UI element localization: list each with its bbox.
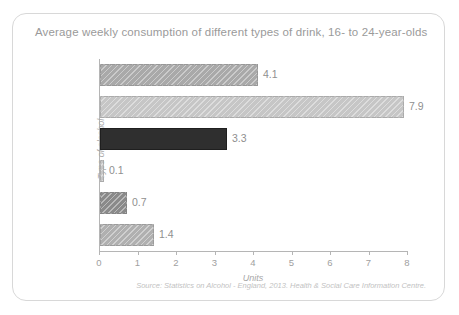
bar-spirits[interactable]	[100, 128, 227, 150]
x-tick	[369, 251, 370, 255]
source-note: Source: Statistics on Alcohol - England,…	[136, 281, 426, 290]
x-tick	[407, 251, 408, 255]
bar-fortified-wine[interactable]	[100, 160, 104, 182]
x-tick-label: 8	[404, 257, 409, 268]
x-tick	[215, 251, 216, 255]
bar-value-label: 0.1	[109, 164, 124, 176]
x-tick-label: 7	[366, 257, 371, 268]
bar-normal-strength-beer[interactable]	[100, 96, 404, 118]
x-tick-label: 3	[212, 257, 217, 268]
x-tick	[253, 251, 254, 255]
bar-value-label: 4.1	[263, 68, 278, 80]
x-tick-label: 5	[289, 257, 294, 268]
x-tick-label: 2	[173, 257, 178, 268]
x-tick-label: 0	[96, 257, 101, 268]
bar-alcopops[interactable]	[100, 224, 154, 246]
x-tick-label: 4	[250, 257, 255, 268]
x-tick	[292, 251, 293, 255]
bar-value-label: 1.4	[159, 228, 174, 240]
x-tick	[176, 251, 177, 255]
x-tick-label: 1	[135, 257, 140, 268]
x-tick	[330, 251, 331, 255]
x-tick	[138, 251, 139, 255]
bar-value-label: 7.9	[409, 100, 424, 112]
bar-value-label: 3.3	[232, 132, 247, 144]
bar-value-label: 0.7	[132, 196, 147, 208]
bar-strong-beer[interactable]	[100, 64, 258, 86]
chart-card: Average weekly consumption of different …	[12, 13, 445, 301]
x-tick-label: 6	[327, 257, 332, 268]
plot-area: Type of alcohol Strong beer, lager, cide…	[99, 59, 407, 251]
chart-title: Average weekly consumption of different …	[35, 26, 427, 38]
bar-wine[interactable]	[100, 192, 127, 214]
x-tick	[99, 251, 100, 255]
